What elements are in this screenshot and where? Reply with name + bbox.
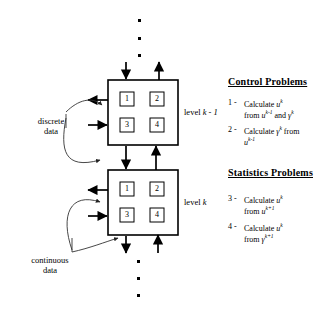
- legend-item-1-line2: from uk-1 and γk: [244, 109, 294, 120]
- connector-continuous-to-bottom: [72, 238, 118, 252]
- legend-item-2-line2-sup: k-1: [248, 136, 255, 142]
- legend-item-4: 4 - Calculate uk from γk+1: [228, 222, 283, 243]
- level-label-upper-var: k - 1: [203, 107, 218, 117]
- legend-item-4-line1-pre: Calculate: [244, 224, 276, 233]
- cell-label-3-upper: 3: [120, 120, 134, 129]
- legend-item-3-line2-sup: k+1: [266, 205, 275, 211]
- legend-item-1-line1-pre: Calculate: [244, 100, 276, 109]
- level-box-upper: [108, 80, 178, 145]
- cell-label-3-lower: 3: [120, 210, 134, 219]
- legend-item-2-line1-pre: Calculate: [244, 127, 276, 136]
- legend-item-4-line1-sup: k: [280, 222, 282, 228]
- legend-item-3-line2-pre: from: [244, 206, 262, 215]
- legend-item-2-line1: Calculate γk from: [244, 125, 299, 136]
- legend-item-4-line2-sup: k+1: [265, 233, 274, 239]
- ellipsis-top: [138, 19, 141, 57]
- legend-item-4-line1: Calculate uk: [244, 222, 283, 233]
- legend-item-1: 1 - Calculate uk from uk-1 and γk: [228, 98, 294, 119]
- legend-item-2-number: 2 -: [228, 125, 237, 134]
- legend-item-1-line2-sup: k-1: [266, 109, 273, 115]
- legend-item-2-line1-post: from: [282, 127, 300, 136]
- cell-label-2-upper: 2: [150, 94, 164, 103]
- legend-item-3-line2: from uk+1: [244, 205, 283, 216]
- level-label-lower-prefix: level: [184, 197, 203, 207]
- discrete-data-line2: data: [22, 127, 80, 137]
- legend-item-1-line2-sup2: k: [291, 109, 293, 115]
- legend-item-3-line1: Calculate uk: [244, 194, 283, 205]
- legend-item-1-line1-sup: k: [280, 98, 282, 104]
- legend-item-4-line2-pre: from: [244, 234, 262, 243]
- level-label-lower: level k: [184, 198, 206, 208]
- legend-item-4-number: 4 -: [228, 222, 237, 231]
- legend-item-2-line2: uk-1: [244, 136, 299, 147]
- connector-discrete-to-upper: [66, 100, 102, 112]
- discrete-data-label: discrete data: [22, 117, 80, 136]
- level-label-upper: level k - 1: [184, 108, 218, 118]
- continuous-data-line2: data: [14, 266, 86, 276]
- level-label-lower-var: k: [203, 197, 207, 207]
- legend-item-3-line1-pre: Calculate: [244, 196, 276, 205]
- cell-label-2-lower: 2: [150, 184, 164, 193]
- legend-item-3-number: 3 -: [228, 194, 237, 203]
- statistics-problems-heading: Statistics Problems: [228, 167, 313, 178]
- continuous-data-label: continuous data: [14, 256, 86, 275]
- legend-item-4-line2: from γk+1: [244, 233, 283, 244]
- legend-item-1-number: 1 -: [228, 98, 237, 107]
- control-problems-heading: Control Problems: [228, 76, 307, 87]
- cell-label-4-lower: 4: [150, 210, 164, 219]
- legend-item-3-line1-sup: k: [280, 194, 282, 200]
- legend-item-1-line2-pre: from: [244, 110, 262, 119]
- legend-item-1-line1: Calculate uk: [244, 98, 294, 109]
- cell-label-1-lower: 1: [120, 184, 134, 193]
- cell-label-1-upper: 1: [120, 94, 134, 103]
- cell-label-4-upper: 4: [150, 120, 164, 129]
- ellipsis-bottom: [137, 260, 140, 297]
- legend-item-3: 3 - Calculate uk from uk+1: [228, 194, 283, 215]
- level-box-lower: [108, 170, 178, 235]
- legend-item-1-line2-mid: and: [273, 110, 289, 119]
- level-label-upper-prefix: level: [184, 107, 203, 117]
- legend-item-2: 2 - Calculate γk from uk-1: [228, 125, 299, 146]
- flow-arrows: [88, 62, 159, 253]
